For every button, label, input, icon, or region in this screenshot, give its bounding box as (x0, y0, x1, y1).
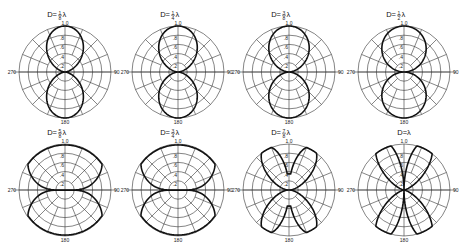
angle-label-180: 180 (174, 237, 183, 243)
grid-spoke (32, 197, 58, 223)
grid-spoke (72, 89, 83, 114)
antenna-pattern-figure: 1.090180270.8.6.4.2D=18λ1.090180270.8.6.… (0, 0, 462, 245)
svg-text:λ: λ (287, 128, 291, 137)
svg-text:λ: λ (176, 10, 180, 19)
radial-label: .6 (173, 162, 177, 168)
radial-label: .8 (60, 35, 64, 41)
grid-spoke (160, 207, 171, 232)
angle-label-270: 270 (8, 187, 17, 193)
grid-spoke (32, 157, 58, 183)
grid-spoke (195, 79, 220, 90)
svg-text:D=: D= (47, 128, 57, 137)
angle-label-180: 180 (400, 237, 409, 243)
grid-spoke (256, 197, 282, 223)
grid-spoke (72, 79, 98, 105)
radial-label: .2 (60, 63, 64, 69)
grid-spoke (247, 54, 272, 65)
grid-spoke (136, 79, 161, 90)
polar-plot-6: 1.090180270.8.6.4.2D=34λ (121, 128, 233, 244)
svg-text:8: 8 (283, 15, 286, 21)
angle-label-180: 180 (61, 119, 70, 125)
angle-label-270: 270 (121, 69, 130, 75)
grid-spoke (82, 54, 107, 65)
radial-label: .6 (399, 44, 403, 50)
polar-plot-5: 1.090180270.8.6.4.2D=58λ (8, 128, 120, 244)
grid-spoke (306, 172, 331, 183)
angle-label-180: 180 (285, 237, 294, 243)
grid-spoke (306, 79, 331, 90)
angle-label-0: 1.0 (286, 20, 293, 26)
angle-label-90: 90 (114, 187, 120, 193)
grid-spoke (371, 79, 397, 105)
svg-text:λ: λ (63, 128, 67, 137)
grid-spoke (145, 157, 171, 183)
grid-spoke (411, 39, 437, 65)
grid-spoke (185, 197, 211, 223)
angle-label-90: 90 (453, 187, 459, 193)
grid-spoke (306, 54, 331, 65)
radial-label: .4 (399, 172, 403, 178)
svg-text:λ: λ (402, 10, 406, 19)
grid-spoke (185, 207, 196, 232)
grid-spoke (47, 89, 58, 114)
angle-label-0: 1.0 (175, 20, 182, 26)
angle-label-180: 180 (400, 119, 409, 125)
polar-plot-7: 1.090180270.8.6.4.2D=78λ (232, 128, 344, 244)
grid-spoke (32, 79, 58, 105)
radial-label: .8 (60, 153, 64, 159)
polar-plot-1: 1.090180270.8.6.4.2D=18λ (8, 10, 120, 126)
svg-text:D=: D= (271, 10, 281, 19)
grid-spoke (145, 197, 171, 223)
polar-plot-3: 1.090180270.8.6.4.2D=38λ (232, 10, 344, 126)
angle-label-270: 270 (232, 187, 241, 193)
grid-spoke (160, 30, 171, 55)
radial-label: .4 (60, 172, 64, 178)
grid-spoke (306, 197, 331, 208)
grid-spoke (421, 197, 446, 208)
grid-spoke (362, 172, 387, 183)
grid-spoke (72, 197, 98, 223)
angle-label-90: 90 (453, 69, 459, 75)
angle-label-90: 90 (338, 187, 344, 193)
grid-spoke (72, 207, 83, 232)
grid-spoke (185, 89, 196, 114)
radial-label: .6 (284, 44, 288, 50)
angle-label-90: 90 (114, 69, 120, 75)
radial-label: .8 (399, 35, 403, 41)
angle-label-180: 180 (61, 237, 70, 243)
grid-spoke (160, 89, 171, 114)
radial-label: .4 (173, 54, 177, 60)
svg-text:8: 8 (59, 15, 62, 21)
radial-label: .2 (173, 63, 177, 69)
svg-text:D=λ: D=λ (397, 128, 411, 137)
radial-label: .2 (173, 181, 177, 187)
grid-spoke (371, 157, 397, 183)
svg-text:D=: D= (160, 10, 170, 19)
angle-label-0: 1.0 (175, 138, 182, 144)
radial-label: .2 (284, 181, 288, 187)
radial-label: .8 (399, 153, 403, 159)
svg-text:4: 4 (172, 133, 175, 139)
grid-spoke (185, 30, 196, 55)
angle-label-270: 270 (347, 187, 356, 193)
radial-label: .2 (399, 181, 403, 187)
grid-spoke (195, 54, 220, 65)
grid-spoke (411, 197, 437, 223)
polar-plot-4: 1.090180270.8.6.4.2D=12λ (347, 10, 459, 126)
grid-spoke (296, 157, 322, 183)
polar-plot-2: 1.090180270.8.6.4.2D=14λ (121, 10, 233, 126)
svg-text:8: 8 (59, 133, 62, 139)
grid-spoke (185, 148, 196, 173)
svg-text:D=: D= (271, 128, 281, 137)
grid-spoke (23, 79, 48, 90)
radial-label: .4 (284, 54, 288, 60)
svg-text:4: 4 (172, 15, 175, 21)
angle-label-180: 180 (174, 119, 183, 125)
grid-spoke (296, 197, 322, 223)
radial-label: .6 (284, 162, 288, 168)
svg-text:λ: λ (287, 10, 291, 19)
grid-spoke (47, 207, 58, 232)
grid-spoke (247, 79, 272, 90)
grid-spoke (411, 157, 437, 183)
svg-text:D=: D= (386, 10, 396, 19)
